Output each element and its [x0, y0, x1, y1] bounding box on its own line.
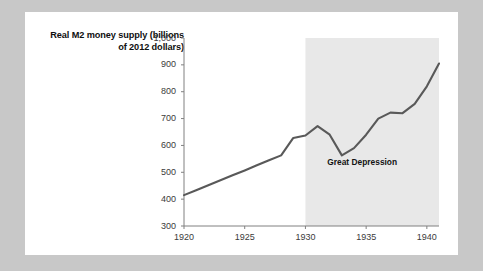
- y-tick-label: 1,000: [138, 34, 176, 43]
- y-tick-label: 300: [138, 222, 176, 231]
- chart-svg: [25, 12, 458, 255]
- x-tick-label: 1930: [285, 233, 325, 242]
- y-tick-label: 800: [138, 87, 176, 96]
- x-tick-label: 1935: [346, 233, 386, 242]
- figure-card: Real M2 money supply (billions of 2012 d…: [25, 12, 458, 255]
- y-tick-label: 700: [138, 114, 176, 123]
- y-tick-label: 600: [138, 141, 176, 150]
- y-tick-label: 500: [138, 168, 176, 177]
- x-tick-label: 1925: [225, 233, 265, 242]
- y-tick-label: 400: [138, 195, 176, 204]
- great-depression-label: Great Depression: [327, 157, 397, 167]
- x-tick-label: 1940: [407, 233, 447, 242]
- chart-plot-area: Real M2 money supply (billions of 2012 d…: [25, 12, 458, 255]
- y-tick-label: 900: [138, 60, 176, 69]
- x-tick-label: 1920: [164, 233, 204, 242]
